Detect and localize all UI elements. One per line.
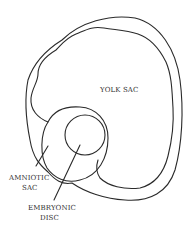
yolk-sac-wall <box>31 27 173 188</box>
embryonic-disc-label-line2: DISC <box>40 214 59 222</box>
yolk-sac-label: YOLK SAC <box>99 86 138 94</box>
embryonic-disc-label-line1: EMBRYONIC <box>28 204 76 212</box>
amniotic-sac-label-line1: AMNIOTIC <box>8 174 49 182</box>
embryonic-disc-leader <box>54 145 80 200</box>
outer-wall <box>26 17 182 200</box>
embryo-diagram: YOLK SAC AMNIOTIC SAC EMBRYONIC DISC <box>0 0 188 228</box>
embryonic-disc <box>65 115 105 155</box>
amniotic-sac-label-line2: SAC <box>22 184 38 192</box>
